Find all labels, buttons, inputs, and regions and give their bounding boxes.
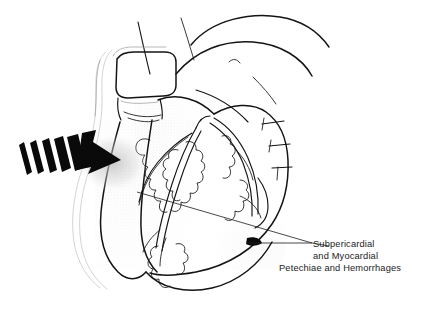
label-line-3: Petechiae and Hemorrhages bbox=[279, 263, 401, 273]
illustration-figure: Subpericardial and Myocardial Petechiae … bbox=[0, 0, 428, 313]
stipple-outflow bbox=[135, 95, 205, 155]
heart-illustration-canvas: Subpericardial and Myocardial Petechiae … bbox=[0, 0, 428, 313]
label-line-1: Subpericardial bbox=[313, 239, 375, 249]
label-line-2: and Myocardial bbox=[313, 251, 378, 261]
